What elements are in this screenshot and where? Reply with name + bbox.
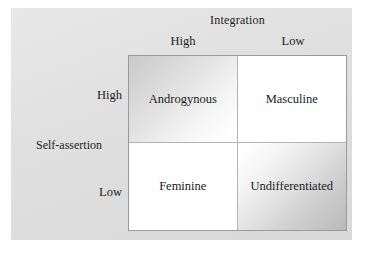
gender-role-matrix-figure: Integration High Low High Low Self-asser… (0, 0, 365, 254)
quadrant-label-undifferentiated: Undifferentiated (251, 179, 333, 194)
row-header-high: High (72, 88, 122, 103)
column-axis-title: Integration (128, 13, 347, 28)
quadrant-matrix: Androgynous Masculine Feminine Undiffere… (128, 55, 347, 231)
quadrant-label-masculine: Masculine (266, 92, 318, 107)
row-header-low: Low (72, 185, 122, 200)
quadrant-label-feminine: Feminine (159, 179, 206, 194)
column-header-low: Low (238, 34, 348, 49)
quadrant-label-androgynous: Androgynous (149, 92, 217, 107)
quadrant-cell-masculine: Masculine (238, 56, 347, 143)
column-header-high: High (128, 34, 238, 49)
quadrant-cell-undifferentiated: Undifferentiated (238, 143, 347, 230)
quadrant-cell-feminine: Feminine (129, 143, 238, 230)
quadrant-cell-androgynous: Androgynous (129, 56, 238, 143)
row-axis-title: Self-assertion (16, 138, 122, 153)
